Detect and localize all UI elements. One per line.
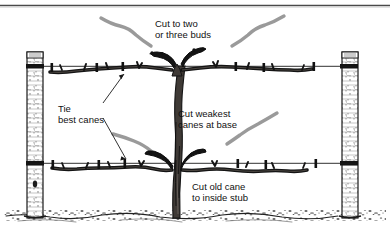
header-rule	[0, 6, 390, 8]
label-cut-weakest-canes: Cut weakest canes at base	[178, 108, 237, 130]
cane-tie	[98, 160, 101, 169]
cane-tie	[52, 160, 55, 169]
label-cut-weakest-canes-line2: canes at base	[178, 119, 237, 130]
leader-arrowhead-upper	[119, 74, 124, 79]
label-cut-old-cane-line2: to inside stub	[192, 192, 248, 203]
label-cut-old-cane: Cut old cane to inside stub	[192, 181, 248, 203]
label-cut-to-buds: Cut to two or three buds	[155, 18, 211, 40]
label-cut-weakest-canes-line1: Cut weakest	[178, 108, 231, 119]
diagram-canvas: Cut to two or three buds Tie best canes …	[0, 0, 390, 235]
cane-tie	[124, 159, 127, 168]
cane-tie	[315, 159, 318, 168]
removed-cane-upper-right	[232, 16, 284, 46]
pruning-diagram-figure: Cut to two or three buds Tie best canes …	[0, 0, 390, 235]
label-cut-to-buds-line2: or three buds	[155, 29, 211, 40]
label-tie-best-canes-line1: Tie	[58, 103, 71, 114]
ground-soil-line	[4, 210, 386, 222]
left-trellis-post	[24, 52, 46, 218]
tie-best-canes-leaders	[103, 74, 126, 161]
cane-tie	[51, 63, 54, 72]
label-tie-best-canes-line2: best canes	[58, 114, 104, 125]
bottom-left-cane	[52, 159, 173, 170]
cane-tie	[237, 159, 240, 168]
bottom-right-cane	[182, 159, 317, 171]
cane-tie	[263, 63, 266, 72]
cane-tie	[96, 63, 99, 72]
top-left-cane	[50, 62, 172, 72]
cane-tie	[235, 62, 238, 71]
label-cut-to-buds-line1: Cut to two	[155, 18, 198, 29]
label-cut-old-cane-line1: Cut old cane	[192, 181, 245, 192]
cane-tie	[265, 160, 268, 169]
right-trellis-post	[339, 52, 361, 218]
cane-tie	[313, 62, 316, 71]
label-tie-best-canes: Tie best canes	[58, 103, 104, 125]
cane-tie	[122, 62, 125, 71]
removed-cane-upper-left	[101, 18, 151, 46]
